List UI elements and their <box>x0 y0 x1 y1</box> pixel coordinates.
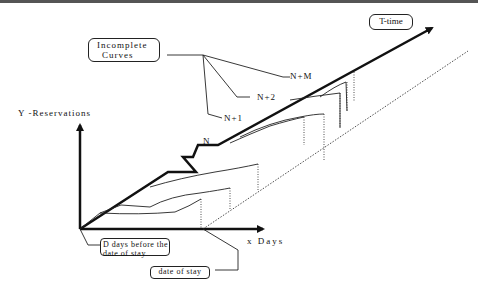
curve-label-n-plus-1: N+1 <box>224 113 243 123</box>
incomplete-curves-line2: Curves <box>97 50 159 60</box>
d-days-line2: date of stay <box>103 249 169 258</box>
x-axis-label: x Days <box>247 236 284 246</box>
callout-n1 <box>203 55 222 118</box>
t-time-box: T-time <box>369 14 413 30</box>
curve-label-n-plus-2: N+2 <box>257 92 276 102</box>
curve-1 <box>80 199 201 229</box>
incomplete-curves-line1: Incomplete <box>97 40 159 50</box>
date-of-stay-box: date of stay <box>150 266 210 279</box>
d-days-box: D days before the date of stay <box>100 238 170 256</box>
diagram-canvas <box>0 0 480 290</box>
date-of-stay-diagonal <box>203 51 468 229</box>
incomplete-curves-box: Incomplete Curves <box>88 38 160 62</box>
curve-3 <box>150 164 258 187</box>
callout-nm <box>203 55 290 77</box>
t-time-label: T-time <box>379 16 403 26</box>
callout-d-days <box>80 229 100 245</box>
callout-date-of-stay <box>203 229 238 270</box>
date-of-stay-label: date of stay <box>159 267 202 276</box>
curve-n2 <box>290 93 340 128</box>
d-days-line1: D days before the <box>103 240 169 249</box>
curve-label-n-plus-m: N+M <box>290 71 313 81</box>
curve-2 <box>100 188 230 213</box>
y-axis-label: Y -Reservations <box>18 108 91 118</box>
curve-label-n: N <box>203 136 211 146</box>
